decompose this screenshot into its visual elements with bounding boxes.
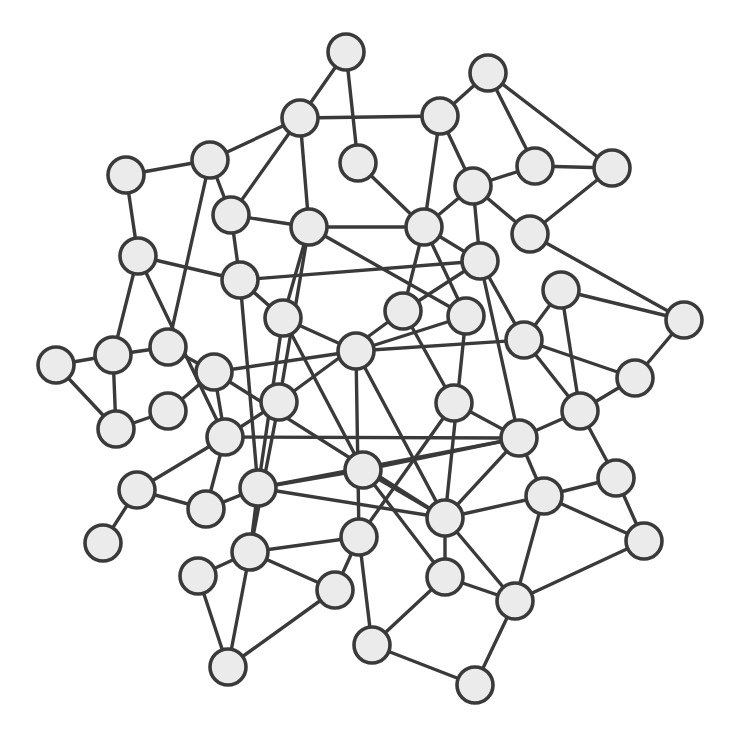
graph-node [232, 534, 268, 570]
graph-node [340, 145, 376, 181]
graph-edge [225, 437, 519, 438]
graph-node [448, 298, 484, 334]
graph-node [422, 98, 458, 134]
graph-node [617, 360, 653, 396]
graph-node [180, 558, 216, 594]
graph-node [265, 300, 301, 336]
graph-node [497, 583, 533, 619]
graph-node [427, 500, 463, 536]
graph-node [594, 150, 630, 186]
graph-node [436, 385, 472, 421]
graph-node [317, 572, 353, 608]
graph-node [291, 209, 327, 245]
network-diagram [0, 0, 738, 732]
graph-node [38, 347, 74, 383]
graph-node [188, 491, 224, 527]
graph-edge [515, 541, 644, 601]
graph-node [210, 649, 246, 685]
graph-node [345, 452, 381, 488]
graph-node [196, 354, 232, 390]
graph-node [598, 460, 634, 496]
graph-edge [168, 160, 210, 347]
network-graph [0, 0, 738, 732]
graph-node [354, 627, 390, 663]
graph-edge [356, 351, 359, 537]
graph-node [95, 337, 131, 373]
graph-node [341, 519, 377, 555]
graph-node [328, 34, 364, 70]
graph-node [192, 142, 228, 178]
graph-node [526, 478, 562, 514]
graph-node [150, 393, 186, 429]
graph-node [427, 559, 463, 595]
graph-node [98, 411, 134, 447]
graph-edge [300, 116, 440, 118]
graph-node [213, 197, 249, 233]
graph-node [462, 243, 498, 279]
graph-node [517, 148, 553, 184]
graph-edge [240, 280, 258, 488]
edge-layer [56, 52, 684, 685]
graph-node [457, 667, 493, 703]
graph-node [150, 329, 186, 365]
graph-node [543, 272, 579, 308]
graph-node [470, 55, 506, 91]
graph-node [562, 393, 598, 429]
graph-node [501, 420, 537, 456]
graph-node [666, 302, 702, 338]
graph-node [282, 100, 318, 136]
graph-node [338, 333, 374, 369]
graph-node [406, 209, 442, 245]
graph-node [120, 238, 156, 274]
graph-node [512, 216, 548, 252]
graph-node [85, 525, 121, 561]
graph-node [207, 419, 243, 455]
graph-node [119, 472, 155, 508]
graph-node [385, 293, 421, 329]
graph-node [455, 168, 491, 204]
graph-node [108, 157, 144, 193]
graph-node [261, 384, 297, 420]
graph-node [240, 470, 276, 506]
graph-node [506, 322, 542, 358]
graph-node [626, 523, 662, 559]
graph-node [222, 262, 258, 298]
